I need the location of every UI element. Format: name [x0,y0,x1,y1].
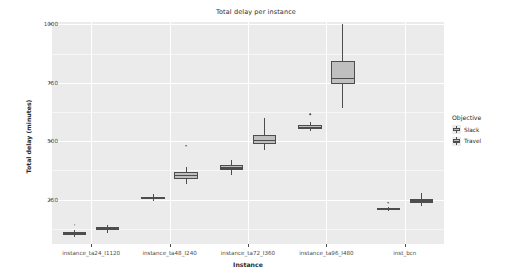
boxplot-median [141,198,165,199]
x-tick-label: instance_ta72_I360 [221,250,275,256]
boxplot-median [174,175,198,176]
boxplot-median [377,208,401,209]
legend-entry-slack: Slack [452,125,510,134]
boxplot-median [331,78,355,79]
gridline-vertical [326,22,327,244]
x-axis-title: Instance [52,261,444,268]
legend-entries: SlackTravel [452,125,510,146]
plot-panel [52,22,444,244]
boxplot-median [253,140,277,141]
boxplot-outlier [74,224,76,226]
legend: Objective SlackTravel [452,114,510,148]
x-tick-mark [170,244,171,247]
x-tick-mark [91,244,92,247]
x-tick-mark [248,244,249,247]
legend-title: Objective [452,114,510,121]
chart-root: Total delay per instance 2505007501000in… [0,0,512,280]
gridline-vertical [405,22,406,244]
legend-key-icon [452,137,461,146]
legend-label: Slack [464,127,479,133]
y-tick-mark [49,24,52,25]
x-tick-label: inst_bcn [393,250,416,256]
x-tick-label: instance_ta48_I240 [142,250,196,256]
boxplot-outlier [309,114,311,116]
boxplot-median [96,228,120,229]
boxplot-outlier [185,145,187,147]
y-axis-title: Total delay (minutes) [25,57,32,217]
gridline-vertical [170,22,171,244]
legend-entry-travel: Travel [452,137,510,146]
boxplot-median [220,167,244,168]
x-tick-label: instance_ta24_I1120 [62,250,120,256]
boxplot-median [63,233,87,234]
x-tick-mark [326,244,327,247]
boxplot-median [410,200,434,201]
chart-title: Total delay per instance [0,8,512,16]
boxplot-median [298,127,322,128]
legend-label: Travel [464,138,481,144]
gridline-vertical [91,22,92,244]
legend-key-icon [452,125,461,134]
y-tick-mark [49,141,52,142]
y-tick-mark [49,82,52,83]
x-tick-label: instance_ta96_I480 [299,250,353,256]
boxplot-outlier [388,202,390,204]
boxplot-box [331,61,355,85]
x-tick-mark [405,244,406,247]
gridline-vertical [248,22,249,244]
y-tick-mark [49,199,52,200]
y-tick-label: 1000 [18,21,58,27]
